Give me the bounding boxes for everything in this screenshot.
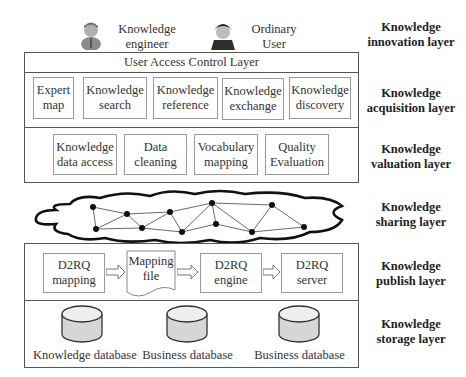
step-d2rq-server: D2RQ server [281, 253, 343, 293]
database-icon [60, 304, 104, 344]
module-knowledge-exchange: Knowledge exchange [222, 78, 284, 120]
layer-label-acquisition: Knowledge acquisition layer [356, 86, 466, 116]
module-knowledge-search: Knowledge search [83, 77, 147, 119]
layer-label-valuation: Knowledge valuation layer [356, 142, 466, 172]
layer-label-storage: Knowledge storage layer [356, 317, 466, 347]
knowledge-engineer-icon [80, 20, 102, 50]
arrow-right-icon [106, 265, 126, 279]
step-mapping-file: Mapping file [126, 254, 176, 284]
module-vocabulary-mapping: Vocabulary mapping [194, 134, 258, 175]
layer-label-innovation: Knowledge innovation layer [356, 20, 466, 50]
step-d2rq-engine: D2RQ engine [200, 253, 262, 293]
knowledge-sharing-cloud [30, 186, 352, 246]
ordinary-user-icon [210, 20, 236, 50]
user-access-control-layer: User Access Control Layer [25, 53, 358, 73]
arrow-right-icon [263, 265, 281, 279]
module-knowledge-data-access: Knowledge data access [53, 134, 117, 175]
db-label-business-database-2: Business database [252, 348, 347, 363]
module-data-cleaning: Data cleaning [124, 134, 187, 175]
database-icon [277, 304, 321, 344]
arrow-right-icon [177, 265, 199, 279]
database-icon [165, 304, 209, 344]
module-knowledge-reference: Knowledge reference [153, 77, 218, 119]
db-label-business-database-1: Business database [140, 348, 235, 363]
module-expert-map: Expert map [33, 77, 74, 119]
db-label-knowledge-database: Knowledge database [33, 348, 133, 363]
layer-label-publish: Knowledge publish layer [356, 259, 466, 289]
module-quality-evaluation: Quality Evaluation [265, 134, 329, 175]
actor-label-knowledge-engineer: Knowledge engineer [112, 22, 182, 52]
module-knowledge-discovery: Knowledge discovery [289, 77, 351, 119]
step-d2rq-mapping: D2RQ mapping [43, 253, 105, 293]
actor-label-ordinary-user: Ordinary User [244, 22, 304, 52]
layer-label-sharing: Knowledge sharing layer [356, 200, 466, 230]
